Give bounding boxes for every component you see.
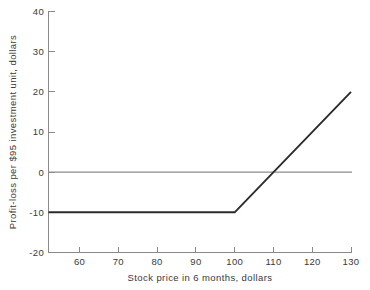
x-tick-label: 70 [113, 256, 124, 267]
x-tick-label: 100 [226, 256, 243, 267]
y-axis-title: Profit-loss per $95 investment unit, dol… [7, 35, 18, 230]
y-tick-label: -20 [29, 247, 44, 258]
chart-background [0, 0, 370, 290]
y-tick-label: -10 [29, 207, 44, 218]
x-tick-label: 80 [152, 256, 163, 267]
x-tick-label: 60 [74, 256, 85, 267]
chart-page: 40 30 20 10 0 -10 -20 60 70 80 90 100 11 [0, 0, 370, 290]
x-tick-label: 130 [343, 256, 360, 267]
y-tick-label: 10 [33, 126, 44, 137]
x-axis-title: Stock price in 6 months, dollars [128, 272, 273, 283]
y-tick-label: 20 [33, 86, 44, 97]
x-tick-label: 90 [190, 256, 201, 267]
payoff-chart: 40 30 20 10 0 -10 -20 60 70 80 90 100 11 [0, 0, 370, 290]
y-tick-label: 30 [33, 46, 44, 57]
x-tick-label: 110 [265, 256, 281, 267]
x-tick-label: 120 [304, 256, 321, 267]
y-tick-label: 40 [33, 6, 44, 17]
y-tick-label: 0 [38, 167, 44, 178]
